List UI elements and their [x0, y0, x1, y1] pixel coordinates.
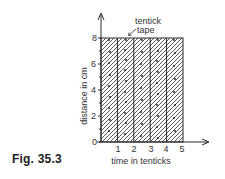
y-tick-2: 2 [91, 111, 96, 121]
hatched-area [101, 38, 183, 142]
x-tick-2: 2 [131, 144, 136, 154]
x-axis-label: time in tenticks [111, 156, 171, 166]
figure-caption: Fig. 35.3 [12, 152, 62, 166]
y-tick-6: 6 [91, 59, 96, 69]
y-tick-4: 4 [91, 85, 96, 95]
x-tick-1: 1 [115, 144, 120, 154]
x-tick-labels: 1 2 3 4 5 [115, 144, 184, 154]
tape-strips [101, 38, 183, 142]
y-tick-0: 0 [92, 137, 97, 147]
y-axis-label: distance in cm [79, 67, 89, 125]
x-tick-3: 3 [148, 144, 153, 154]
x-tick-5: 5 [179, 144, 184, 154]
y-tick-labels: 0 2 4 6 8 [91, 33, 97, 147]
annotation-line-2: tape [137, 25, 155, 35]
x-tick-4: 4 [163, 144, 168, 154]
annotation-pointer-arrow-icon [129, 29, 137, 36]
y-tick-8: 8 [92, 33, 97, 43]
